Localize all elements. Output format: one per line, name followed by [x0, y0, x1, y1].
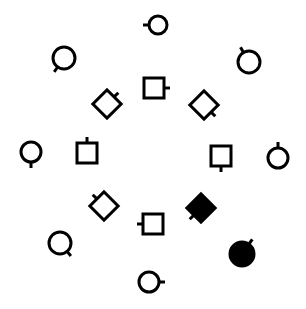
diamond-icon: [90, 192, 118, 220]
circle-icon: [49, 232, 71, 256]
circle-icon: [53, 47, 75, 72]
diamond-icon: [93, 90, 121, 118]
stick-line: [93, 195, 97, 199]
circle-icon: [238, 47, 260, 73]
square-icon: [77, 137, 97, 163]
stick-line: [67, 251, 71, 256]
stick-line: [54, 67, 58, 72]
square-icon: [137, 214, 163, 234]
shapes-diagram: [0, 0, 306, 309]
circle-icon: [268, 142, 288, 168]
shape-layer: [21, 16, 288, 292]
stick-line: [190, 215, 194, 219]
stick-line: [211, 112, 215, 116]
circle-icon: [143, 16, 167, 34]
filled-diamond-icon: [187, 194, 215, 222]
stick-line: [249, 239, 252, 244]
stick-line: [114, 93, 118, 97]
square-icon: [144, 78, 170, 98]
stick-line: [241, 47, 244, 52]
square-icon: [211, 146, 231, 172]
circle-icon: [139, 272, 165, 292]
diamond-icon: [190, 91, 218, 119]
filled-circle-icon: [230, 239, 254, 266]
circle-icon: [21, 142, 41, 168]
